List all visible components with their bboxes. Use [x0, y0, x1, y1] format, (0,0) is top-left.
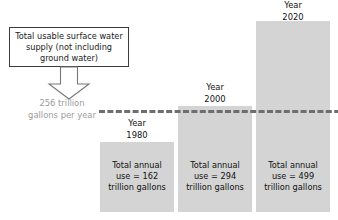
- supply-amount-line-1: 256 trillion: [39, 98, 84, 108]
- bar-2000: Total annual use = 294 trillion gallons: [178, 106, 252, 212]
- year-label-2020-line-2: 2020: [282, 12, 303, 22]
- bar-2020-label-line-1: Total annual: [268, 160, 318, 170]
- callout-line-1: Total usable surface water: [15, 31, 123, 41]
- supply-callout-text: Total usable surface water supply (not i…: [12, 31, 126, 64]
- bar-1980-label-line-3: trillion gallons: [108, 182, 166, 192]
- down-arrow-shape: [49, 67, 89, 99]
- year-label-2000-line-1: Year: [206, 82, 224, 92]
- bar-1980-label: Total annual use = 162 trillion gallons: [108, 160, 166, 193]
- supply-amount-line-2: gallons per year: [28, 110, 96, 120]
- bar-2000-label-line-2: use = 294: [194, 171, 236, 181]
- bar-2020-body: Total annual use = 499 trillion gallons: [256, 140, 330, 212]
- year-label-1980-line-2: 1980: [126, 130, 147, 140]
- year-label-2020-line-1: Year: [284, 0, 302, 10]
- supply-callout-box: Total usable surface water supply (not i…: [9, 27, 129, 67]
- year-label-2000: Year 2000: [178, 82, 252, 105]
- bar-2020-label: Total annual use = 499 trillion gallons: [264, 160, 322, 193]
- supply-reference-line: [99, 110, 338, 113]
- bar-1980-label-line-1: Total annual: [112, 160, 162, 170]
- year-label-1980: Year 1980: [100, 118, 174, 141]
- bar-1980: Total annual use = 162 trillion gallons: [100, 142, 174, 212]
- down-arrow-icon: [44, 66, 94, 100]
- bar-2020: Total annual use = 499 trillion gallons: [256, 21, 330, 212]
- bar-2000-body: Total annual use = 294 trillion gallons: [178, 140, 252, 212]
- callout-line-2: supply (not including: [26, 42, 112, 52]
- bar-2000-label: Total annual use = 294 trillion gallons: [186, 160, 244, 193]
- bar-2000-label-line-3: trillion gallons: [186, 182, 244, 192]
- water-supply-diagram: Total usable surface water supply (not i…: [0, 0, 338, 220]
- year-label-1980-line-1: Year: [128, 118, 146, 128]
- bar-2020-label-line-3: trillion gallons: [264, 182, 322, 192]
- bar-1980-body: Total annual use = 162 trillion gallons: [100, 140, 174, 212]
- bar-2020-label-line-2: use = 499: [272, 171, 314, 181]
- year-label-2000-line-2: 2000: [204, 94, 225, 104]
- bar-2000-label-line-1: Total annual: [190, 160, 240, 170]
- year-label-2020: Year 2020: [256, 0, 330, 23]
- bar-1980-label-line-2: use = 162: [116, 171, 158, 181]
- callout-line-3: ground water): [40, 53, 98, 63]
